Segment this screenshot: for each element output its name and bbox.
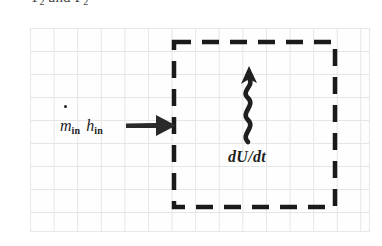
caption-base-1: T bbox=[30, 0, 39, 5]
caption-conjunction: and bbox=[45, 0, 75, 5]
inlet-arrow-shape bbox=[126, 115, 176, 136]
inlet-mass-flow-arrow bbox=[126, 112, 180, 140]
clipped-caption-text: T2 and P2 bbox=[30, 0, 230, 7]
caption-base-2: P bbox=[75, 0, 84, 5]
mass-flow-dot-accent bbox=[64, 105, 67, 108]
inlet-arrow-svg bbox=[126, 112, 180, 140]
squiggly-energy-arrow bbox=[228, 62, 272, 144]
energy-storage-label: dU/dt bbox=[202, 146, 292, 170]
mass-flow-symbol: m bbox=[60, 117, 72, 134]
enthalpy-subscript: in bbox=[94, 125, 103, 136]
squiggle-arrow-svg bbox=[228, 62, 272, 144]
inlet-flow-label: minhin bbox=[60, 112, 130, 142]
mass-flow-letter: m bbox=[60, 117, 72, 134]
figure-root: T2 and P2 minhin dU/dt bbox=[0, 0, 382, 246]
squiggle-wave-path bbox=[246, 78, 251, 142]
mass-flow-subscript: in bbox=[72, 125, 81, 136]
caption-sub-2: 2 bbox=[83, 0, 88, 7]
